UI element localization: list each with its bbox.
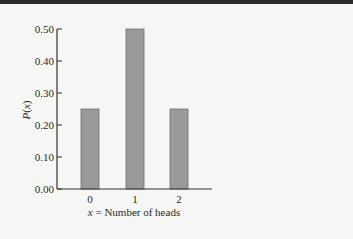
y-tick-label: 0.20 [35, 119, 55, 131]
x-axis-title: x = Number of heads [87, 206, 180, 218]
x-tick-label: 1 [132, 193, 138, 205]
y-tick-label: 0.10 [35, 151, 55, 163]
probability-bar-chart: 0.000.100.200.300.400.50 012 P(x) x = Nu… [0, 0, 353, 239]
bar-x-1 [126, 29, 144, 189]
y-tick-label: 0.30 [35, 87, 55, 99]
y-axis: 0.000.100.200.300.400.50 [35, 23, 62, 195]
x-tick-label: 2 [176, 193, 182, 205]
bars [81, 29, 188, 189]
bar-x-0 [81, 109, 99, 189]
y-tick-label: 0.50 [35, 23, 55, 35]
y-tick-label: 0.00 [35, 183, 55, 195]
y-axis-title: P(x) [20, 100, 33, 120]
bar-x-2 [170, 109, 188, 189]
x-axis: 012 [57, 189, 212, 205]
x-tick-label: 0 [87, 193, 93, 205]
y-tick-label: 0.40 [35, 55, 55, 67]
